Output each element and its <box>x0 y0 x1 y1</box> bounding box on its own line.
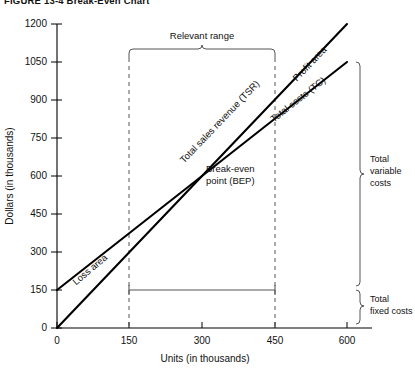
y-axis-tick-labels: 0 150 300 450 600 750 900 1050 1200 <box>25 18 48 333</box>
y-tick-label-1050: 1050 <box>25 56 48 67</box>
tvc-line-3: costs <box>370 178 392 188</box>
bep-line-1: Break-even <box>206 163 255 174</box>
fixed-cost-span <box>129 285 275 295</box>
y-axis-title: Dollars (in thousands) <box>4 127 15 224</box>
y-tick-label-300: 300 <box>30 246 47 257</box>
tfc-line-1: Total <box>370 294 389 304</box>
total-fixed-costs-label: Total fixed costs <box>370 294 413 316</box>
relevant-range-brace <box>129 45 275 58</box>
profit-area-label: Profit area <box>290 43 329 83</box>
y-tick-label-0: 0 <box>41 322 47 333</box>
y-tick-label-750: 750 <box>30 132 47 143</box>
x-axis-ticks <box>57 322 347 328</box>
relevant-range-guides <box>129 58 275 328</box>
x-tick-label-150: 150 <box>121 335 138 346</box>
y-tick-label-900: 900 <box>30 94 47 105</box>
loss-area-label: Loss area <box>70 251 110 287</box>
y-tick-label-1200: 1200 <box>25 18 48 29</box>
y-tick-label-150: 150 <box>30 284 47 295</box>
chart-canvas: 0 150 300 450 600 750 900 1050 1200 Doll… <box>0 0 415 370</box>
total-variable-costs-label: Total variable costs <box>370 154 402 188</box>
total-fixed-costs-brace <box>356 290 364 324</box>
x-tick-label-300: 300 <box>194 335 211 346</box>
tvc-line-2: variable <box>370 166 402 176</box>
break-even-point-label: Break-even point (BEP) <box>206 163 255 186</box>
x-axis-title: Units (in thousands) <box>161 353 250 364</box>
y-tick-label-600: 600 <box>30 170 47 181</box>
relevant-range-label: Relevant range <box>170 30 234 41</box>
x-axis-tick-labels: 0 150 300 450 600 <box>54 335 356 346</box>
x-tick-label-600: 600 <box>339 335 356 346</box>
y-tick-label-450: 450 <box>30 208 47 219</box>
tvc-line-1: Total <box>370 154 389 164</box>
tfc-line-2: fixed costs <box>370 306 413 316</box>
bep-line-2: point (BEP) <box>206 175 255 186</box>
break-even-chart-figure: FIGURE 13-4 Break-Even Chart 0 150 300 4… <box>0 0 415 370</box>
x-tick-label-450: 450 <box>267 335 284 346</box>
total-variable-costs-brace <box>356 62 364 286</box>
tsr-inline-label: Total sales revenue (TSR) <box>178 78 262 165</box>
x-tick-label-0: 0 <box>54 335 60 346</box>
